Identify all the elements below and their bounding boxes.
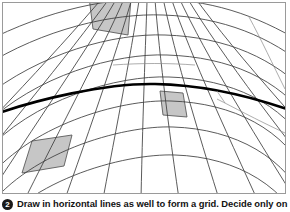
- shaded-cell-middle-right: [160, 91, 187, 117]
- step-number-badge: 2: [2, 199, 13, 210]
- caption-text: Draw in horizontal lines as well to form…: [17, 198, 288, 210]
- figure-panel: [2, 2, 286, 194]
- figure-page: 2 Draw in horizontal lines as well to fo…: [0, 0, 290, 212]
- caption-row: 2 Draw in horizontal lines as well to fo…: [2, 198, 288, 212]
- perspective-grid-illustration: [3, 3, 285, 193]
